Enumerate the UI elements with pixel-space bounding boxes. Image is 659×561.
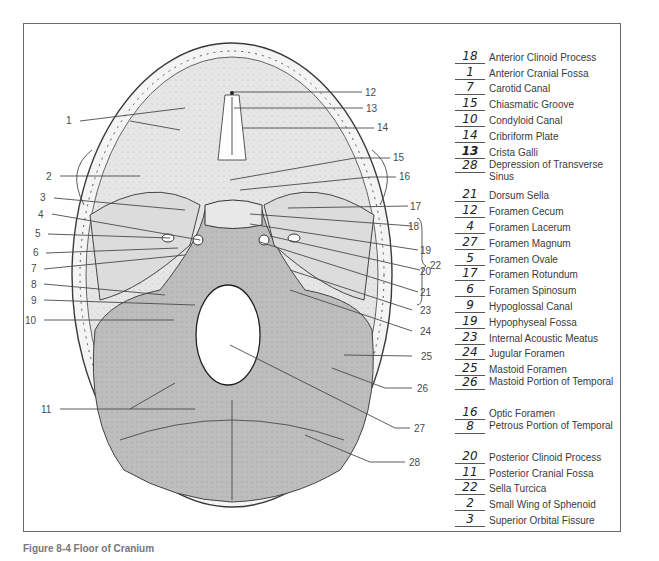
answer-blank[interactable]: 27 — [455, 236, 485, 250]
answer-blank[interactable]: 19 — [455, 315, 485, 329]
term-label: Small Wing of Sphenoid — [489, 499, 596, 511]
answer-blank[interactable]: 3 — [455, 513, 485, 527]
term-label: Jugular Foramen — [489, 348, 565, 360]
legend-item: 18Anterior Clinoid Process — [455, 48, 625, 64]
svg-text:18: 18 — [408, 221, 420, 232]
term-label: Sella Turcica — [489, 483, 546, 495]
svg-text:25: 25 — [421, 351, 433, 362]
legend-item: 11Posterior Cranial Fossa — [455, 464, 625, 480]
svg-text:15: 15 — [393, 152, 405, 163]
legend-item: 9Hypoglossal Canal — [455, 297, 625, 313]
svg-text:24: 24 — [420, 326, 432, 337]
answer-blank[interactable]: 8 — [455, 420, 485, 434]
figure-caption: Figure 8-4 Floor of Cranium — [23, 543, 154, 554]
legend-item: 13Crista Galli — [455, 143, 625, 159]
answer-blank[interactable]: 10 — [455, 113, 485, 127]
legend-item: 6Foramen Spinosum — [455, 281, 625, 297]
answer-blank[interactable]: 17 — [455, 267, 485, 281]
answer-blank[interactable]: 6 — [455, 283, 485, 297]
term-label: Crista Galli — [489, 147, 538, 159]
term-label: Superior Orbital Fissure — [489, 515, 595, 527]
term-label: Anterior Cranial Fossa — [489, 68, 588, 80]
answer-blank[interactable]: 25 — [455, 362, 485, 376]
svg-text:16: 16 — [399, 171, 411, 182]
legend-item: 19Hypophyseal Fossa — [455, 313, 625, 329]
svg-text:8: 8 — [31, 279, 37, 290]
legend-item: 12Foramen Cecum — [455, 202, 625, 218]
answer-blank[interactable]: 20 — [455, 450, 485, 464]
svg-text:7: 7 — [31, 263, 37, 274]
legend-item: 10Condyloid Canal — [455, 111, 625, 127]
legend-item: 5Foramen Ovale — [455, 250, 625, 266]
term-label: Optic Foramen — [489, 408, 555, 420]
legend-item: 8Petrous Portion of Temporal — [455, 420, 625, 448]
answer-blank[interactable]: 18 — [455, 50, 485, 64]
answer-blank[interactable]: 15 — [455, 97, 485, 111]
legend-item: 26Mastoid Portion of Temporal — [455, 376, 625, 404]
left-callout-numbers: 1 2 3 4 5 6 7 8 9 10 11 — [25, 115, 72, 415]
term-label: Petrous Portion of Temporal — [489, 420, 613, 432]
answer-blank[interactable]: 11 — [455, 466, 485, 480]
legend-item: 17Foramen Rotundum — [455, 266, 625, 282]
svg-text:6: 6 — [33, 247, 39, 258]
answer-blank[interactable]: 24 — [455, 346, 485, 360]
term-label: Anterior Clinoid Process — [489, 52, 596, 64]
svg-text:17: 17 — [410, 201, 422, 212]
answer-blank[interactable]: 13 — [455, 145, 485, 159]
svg-text:19: 19 — [420, 245, 432, 256]
term-label: Cribriform Plate — [489, 131, 558, 143]
svg-text:3: 3 — [40, 192, 46, 203]
answer-blank[interactable]: 28 — [455, 159, 485, 173]
term-label: Foramen Lacerum — [489, 222, 571, 234]
term-label: Chiasmatic Groove — [489, 99, 574, 111]
svg-text:9: 9 — [31, 295, 37, 306]
svg-text:27: 27 — [414, 423, 426, 434]
term-label: Hypoglossal Canal — [489, 301, 572, 313]
term-label: Mastoid Foramen — [489, 364, 567, 376]
legend-item: 21Dorsum Sella — [455, 187, 625, 203]
svg-text:11: 11 — [41, 404, 52, 415]
svg-text:4: 4 — [38, 209, 44, 220]
legend-item: 23Internal Acoustic Meatus — [455, 329, 625, 345]
legend-item: 16Optic Foramen — [455, 404, 625, 420]
term-label: Foramen Spinosum — [489, 285, 576, 297]
term-label: Mastoid Portion of Temporal — [489, 376, 613, 388]
answer-blank[interactable]: 9 — [455, 299, 485, 313]
legend-item: 22Sella Turcica — [455, 480, 625, 496]
legend-item: 3Superior Orbital Fissure — [455, 511, 625, 527]
svg-text:10: 10 — [25, 315, 37, 326]
answer-key-list: 18Anterior Clinoid Process1Anterior Cran… — [455, 48, 625, 527]
svg-text:13: 13 — [366, 103, 378, 114]
answer-blank[interactable]: 22 — [455, 481, 485, 495]
svg-text:2: 2 — [46, 171, 52, 182]
svg-text:21: 21 — [420, 287, 432, 298]
legend-item: 1Anterior Cranial Fossa — [455, 64, 625, 80]
svg-text:5: 5 — [35, 228, 41, 239]
answer-blank[interactable]: 14 — [455, 129, 485, 143]
svg-text:28: 28 — [409, 457, 421, 468]
answer-blank[interactable]: 23 — [455, 331, 485, 345]
term-label: Foramen Ovale — [489, 254, 558, 266]
term-label: Foramen Rotundum — [489, 269, 578, 281]
answer-blank[interactable]: 12 — [455, 204, 485, 218]
answer-blank[interactable]: 5 — [455, 252, 485, 266]
term-label: Condyloid Canal — [489, 115, 562, 127]
answer-blank[interactable]: 16 — [455, 406, 485, 420]
foramen-magnum — [196, 285, 260, 385]
answer-blank[interactable]: 1 — [455, 66, 485, 80]
svg-text:22: 22 — [430, 260, 442, 271]
answer-blank[interactable]: 26 — [455, 376, 485, 390]
answer-blank[interactable]: 2 — [455, 497, 485, 511]
legend-item: 24Jugular Foramen — [455, 345, 625, 361]
answer-blank[interactable]: 7 — [455, 81, 485, 95]
legend-item: 4Foramen Lacerum — [455, 218, 625, 234]
term-label: Dorsum Sella — [489, 190, 549, 202]
legend-item: 27Foramen Magnum — [455, 234, 625, 250]
term-label: Posterior Cranial Fossa — [489, 468, 593, 480]
svg-text:12: 12 — [365, 87, 377, 98]
legend-item: 7Carotid Canal — [455, 80, 625, 96]
answer-blank[interactable]: 4 — [455, 220, 485, 234]
term-label: Carotid Canal — [489, 83, 550, 95]
answer-blank[interactable]: 21 — [455, 188, 485, 202]
term-label: Hypophyseal Fossa — [489, 317, 577, 329]
